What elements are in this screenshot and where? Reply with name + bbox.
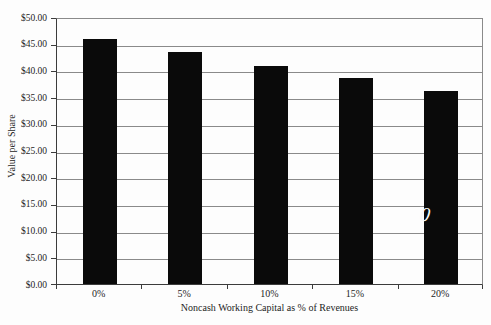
bar-10% bbox=[254, 66, 288, 284]
y-tick-label: $30.00 bbox=[0, 119, 51, 130]
y-tick-label: $20.00 bbox=[0, 173, 51, 184]
bar-20% bbox=[424, 91, 458, 284]
y-axis-tick bbox=[51, 125, 56, 126]
bar-chart-figure: Value per Share Noncash Working Capital … bbox=[0, 0, 491, 325]
y-axis-tick bbox=[51, 98, 56, 99]
x-axis-tick bbox=[56, 285, 57, 289]
x-tick-label: 20% bbox=[398, 288, 483, 300]
y-tick-label: $50.00 bbox=[0, 13, 51, 24]
x-tick-label: 10% bbox=[227, 288, 312, 300]
x-axis-tick bbox=[398, 285, 399, 289]
y-tick-label: $15.00 bbox=[0, 199, 51, 210]
y-tick-label: $25.00 bbox=[0, 146, 51, 157]
y-tick-label: $40.00 bbox=[0, 66, 51, 77]
y-axis-tick bbox=[51, 178, 56, 179]
y-axis-tick bbox=[51, 232, 56, 233]
y-axis-tick bbox=[51, 18, 56, 19]
x-axis-tick bbox=[141, 285, 142, 289]
y-axis-tick bbox=[51, 152, 56, 153]
bar-5% bbox=[168, 52, 202, 284]
y-tick-label: $45.00 bbox=[0, 39, 51, 50]
x-axis-tick bbox=[227, 285, 228, 289]
y-tick-label: $35.00 bbox=[0, 93, 51, 104]
x-axis-title: Noncash Working Capital as % of Revenues bbox=[56, 302, 483, 313]
y-axis-tick bbox=[51, 71, 56, 72]
x-tick-label: 5% bbox=[141, 288, 226, 300]
gridline bbox=[57, 46, 482, 47]
x-tick-label: 0% bbox=[56, 288, 141, 300]
y-tick-label: $5.00 bbox=[0, 253, 51, 264]
x-axis-tick bbox=[482, 285, 483, 289]
y-tick-label: $0.00 bbox=[0, 280, 51, 291]
x-tick-label: 15% bbox=[312, 288, 397, 300]
y-axis-tick bbox=[51, 205, 56, 206]
y-axis-tick bbox=[51, 45, 56, 46]
y-tick-label: $10.00 bbox=[0, 226, 51, 237]
x-axis-tick bbox=[312, 285, 313, 289]
plot-area bbox=[56, 18, 483, 285]
bar-15% bbox=[339, 78, 373, 284]
y-axis-tick bbox=[51, 258, 56, 259]
bar-0% bbox=[83, 39, 117, 284]
